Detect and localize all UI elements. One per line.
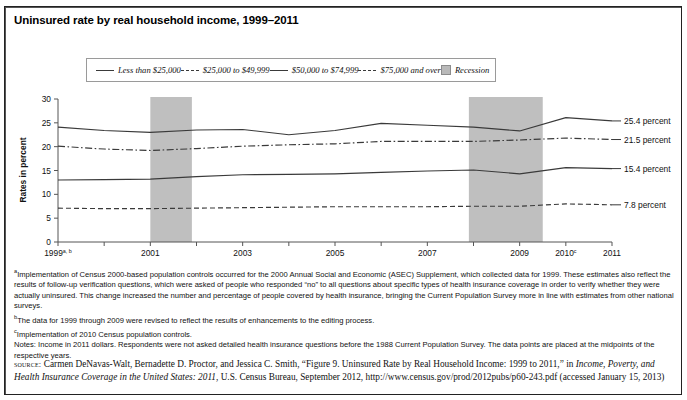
legend-item-50000-to-74999[interactable]: $50,000 to $74,999 [270,65,359,75]
legend-label: $25,000 to $49,999 [203,65,270,75]
legend-item-recession[interactable]: Recession [441,65,489,75]
footnote-c: cImplementation of 2010 Census populatio… [14,326,674,340]
line-dashdot-icon [181,67,199,74]
recession-swatch-icon [441,65,451,75]
legend-label: Recession [455,65,489,75]
chart-title: Uninsured rate by real household income,… [14,14,299,26]
legend-item-75000-and-over[interactable]: $75,000 and over [358,65,440,75]
footnote-b-text: The data for 1999 through 2009 were revi… [17,315,374,324]
source-part2: , U.S. Census Bureau, September 2012, ht… [216,372,664,382]
line-solid-icon [270,67,288,74]
footnotes: aImplementation of Census 2000-based pop… [14,266,674,361]
chart-legend: Less than $25,000 $25,000 to $49,999 $50… [86,58,496,82]
footnote-c-text: Implementation of 2010 Census population… [17,330,192,339]
legend-label: $50,000 to $74,999 [292,65,359,75]
legend-item-less-than-25000[interactable]: Less than $25,000 [96,65,181,75]
figure-page: Uninsured rate by real household income,… [0,0,687,400]
source-prefix: source: [14,360,41,369]
footnote-a: aImplementation of Census 2000-based pop… [14,266,674,312]
source-citation: source: Carmen DeNavas-Walt, Bernadette … [14,358,674,383]
legend-label: Less than $25,000 [118,65,181,75]
legend-label: $75,000 and over [380,65,440,75]
source-part1: Carmen DeNavas-Walt, Bernadette D. Proct… [41,359,575,369]
line-dashed-icon [358,67,376,74]
footnote-a-text: Implementation of Census 2000-based popu… [14,270,674,311]
line-solid-icon [96,67,114,74]
legend-item-25000-to-49999[interactable]: $25,000 to $49,999 [181,65,270,75]
footnote-b: bThe data for 1999 through 2009 were rev… [14,312,674,326]
